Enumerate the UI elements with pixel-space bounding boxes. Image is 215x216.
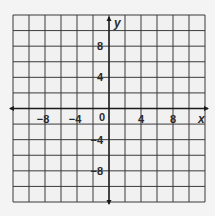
x-axis-arrow-right-icon (204, 106, 209, 111)
origin-label: 0 (99, 111, 105, 123)
y-tick-label: 4 (97, 71, 104, 83)
x-axis-arrow-left-icon (9, 106, 14, 111)
x-tick-label: −4 (69, 113, 82, 125)
x-tick-label: 4 (138, 113, 145, 125)
y-tick-label: 8 (97, 40, 103, 52)
y-tick-label: −4 (90, 134, 103, 146)
x-tick-label: 8 (170, 113, 176, 125)
x-axis-label: x (197, 112, 206, 126)
y-axis-label: y (113, 16, 122, 30)
x-tick-label: −8 (37, 113, 50, 125)
y-tick-label: −8 (90, 165, 103, 177)
coordinate-plane: −8−404884−4−8 x y (0, 0, 215, 216)
